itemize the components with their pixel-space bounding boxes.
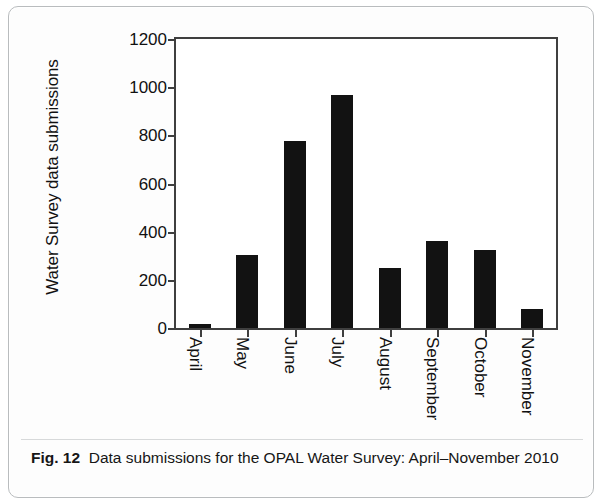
x-axis-label-slot: April [174, 337, 222, 437]
x-axis-label-slot: June [269, 337, 317, 437]
bar[interactable] [236, 255, 258, 328]
y-axis-tick-mark [168, 135, 176, 137]
bar-slot [461, 39, 509, 328]
bar-slot [509, 39, 557, 328]
x-axis-tick-mark [200, 328, 202, 337]
x-axis-tick-label: July [327, 337, 347, 367]
figure-caption-label: Fig. 12 [31, 449, 80, 466]
bar[interactable] [521, 309, 543, 328]
x-axis-tick-group [176, 328, 556, 337]
bar-slot [176, 39, 224, 328]
x-axis-tick-slot [224, 328, 272, 337]
x-axis-tick-mark [437, 328, 439, 337]
x-axis-tick-slot [461, 328, 509, 337]
bar[interactable] [284, 141, 306, 328]
bar-slot [319, 39, 367, 328]
x-axis-label-slot: May [222, 337, 270, 437]
y-axis-tick-mark [168, 39, 176, 41]
bar-slot [414, 39, 462, 328]
x-axis-tick-mark [295, 328, 297, 337]
x-axis-tick-slot [366, 328, 414, 337]
x-axis-tick-slot [271, 328, 319, 337]
y-axis-title: Water Survey data submissions [43, 27, 63, 327]
x-axis-label-slot: July [317, 337, 365, 437]
x-axis-tick-label: June [280, 337, 300, 374]
bar[interactable] [379, 268, 401, 328]
x-axis-tick-label: August [375, 337, 395, 390]
x-axis-labels: AprilMayJuneJulyAugustSeptemberOctoberNo… [174, 337, 554, 437]
figure-caption-text: Data submissions for the OPAL Water Surv… [89, 449, 559, 466]
x-axis-label-slot: September [412, 337, 460, 437]
bars-layer [176, 39, 556, 328]
x-axis-tick-slot [509, 328, 557, 337]
bar-chart: Water Survey data submissions 0200400600… [9, 7, 595, 437]
x-axis-label-slot: October [459, 337, 507, 437]
x-axis-tick-label: September [422, 337, 442, 420]
y-axis-tick-mark [168, 184, 176, 186]
caption-divider [21, 439, 583, 440]
x-axis-tick-slot [176, 328, 224, 337]
figure-caption: Fig. 12 Data submissions for the OPAL Wa… [31, 447, 576, 469]
x-axis-tick-slot [319, 328, 367, 337]
x-axis-label-slot: August [364, 337, 412, 437]
x-axis-tick-mark [532, 328, 534, 337]
x-axis-tick-label: May [232, 337, 252, 369]
x-axis-tick-mark [342, 328, 344, 337]
y-axis-tick-mark [168, 232, 176, 234]
x-axis-tick-slot [414, 328, 462, 337]
y-axis-tick-mark [168, 280, 176, 282]
bar[interactable] [474, 250, 496, 328]
y-axis-tick-mark [168, 328, 176, 330]
x-axis-tick-mark [390, 328, 392, 337]
bar-slot [224, 39, 272, 328]
x-axis-tick-label: April [185, 337, 205, 371]
plot-area: 020040060080010001200 [174, 37, 558, 330]
bar-slot [366, 39, 414, 328]
figure-card: Water Survey data submissions 0200400600… [8, 6, 594, 498]
x-axis-tick-mark [247, 328, 249, 337]
y-axis-tick-mark [168, 87, 176, 89]
x-axis-tick-label: October [470, 337, 490, 397]
bar[interactable] [426, 241, 448, 328]
x-axis-label-slot: November [507, 337, 555, 437]
bar-slot [271, 39, 319, 328]
x-axis-tick-mark [485, 328, 487, 337]
bar[interactable] [331, 95, 353, 328]
x-axis-tick-label: November [517, 337, 537, 415]
